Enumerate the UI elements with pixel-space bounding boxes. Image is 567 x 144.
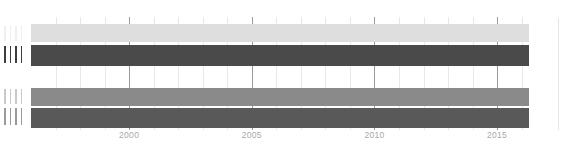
plot-area <box>31 17 529 130</box>
timeline-bar-3[interactable] <box>31 108 529 128</box>
label-stroke-glyph <box>10 46 12 63</box>
label-stroke-glyph <box>21 26 23 41</box>
label-stroke-glyph <box>10 26 12 41</box>
label-stroke-glyph <box>15 108 17 125</box>
label-stroke-glyph <box>21 46 23 63</box>
label-stroke-glyph <box>4 89 6 104</box>
label-stroke-glyph <box>15 89 17 104</box>
y-axis-label-3 <box>4 108 32 125</box>
y-axis-label-2 <box>4 89 32 104</box>
y-axis-label-column <box>0 0 32 144</box>
label-stroke-glyph <box>4 26 6 41</box>
label-stroke-glyph <box>10 108 12 125</box>
label-stroke-glyph <box>4 108 6 125</box>
label-stroke-glyph <box>10 89 12 104</box>
label-stroke-glyph <box>21 108 23 125</box>
y-axis-label-1 <box>4 46 32 63</box>
label-stroke-glyph <box>4 46 6 63</box>
x-tick-label-2005: 2005 <box>242 130 262 140</box>
timeline-bar-1[interactable] <box>31 45 529 66</box>
panel-divider <box>558 18 559 130</box>
x-tick-label-2000: 2000 <box>119 130 139 140</box>
label-stroke-glyph <box>21 89 23 104</box>
bar-series <box>31 17 529 130</box>
label-stroke-glyph <box>15 26 17 41</box>
y-axis-label-0 <box>4 26 32 41</box>
x-tick-label-2015: 2015 <box>487 130 507 140</box>
x-axis-ticks: 2000200520102015 <box>31 130 529 144</box>
timeline-chart: 2000200520102015 <box>0 0 567 144</box>
x-tick-label-2010: 2010 <box>364 130 384 140</box>
label-stroke-glyph <box>15 46 17 63</box>
timeline-bar-2[interactable] <box>31 88 529 106</box>
timeline-bar-0[interactable] <box>31 24 529 42</box>
